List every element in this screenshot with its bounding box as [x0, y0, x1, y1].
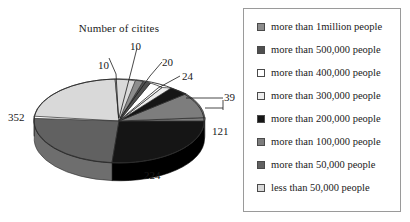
pie-slice-352 [34, 79, 119, 121]
legend-item-300000[interactable]: more than 300,000 people [257, 84, 403, 107]
legend-swatch-icon [257, 161, 265, 169]
data-label-352: 352 [8, 112, 25, 123]
data-label-10-left: 10 [98, 60, 109, 71]
legend-item-50000[interactable]: more than 50,000 people [257, 153, 403, 176]
data-label-24: 24 [182, 71, 193, 82]
legend-item-100000[interactable]: more than 100,000 people [257, 130, 403, 153]
legend-label: more than 200,000 people [271, 113, 381, 124]
legend-item-200000[interactable]: more than 200,000 people [257, 107, 403, 130]
legend-label: more than 50,000 people [271, 159, 375, 170]
legend-item-less-50000[interactable]: less than 50,000 people [257, 176, 403, 199]
legend-label: more than 100,000 people [271, 136, 381, 147]
legend-swatch-icon [257, 69, 265, 77]
legend-label: less than 50,000 people [271, 182, 370, 193]
legend-swatch-icon [257, 23, 265, 31]
pie-chart-figure: Number of citites [0, 0, 410, 222]
legend-swatch-icon [257, 138, 265, 146]
chart-plot-area: Number of citites [0, 0, 238, 222]
legend-swatch-icon [257, 184, 265, 192]
legend-item-500000[interactable]: more than 500,000 people [257, 38, 403, 61]
data-label-121: 121 [212, 126, 229, 137]
legend-swatch-icon [257, 115, 265, 123]
pie-graphic [0, 0, 238, 222]
legend-item-1million[interactable]: more than 1million people [257, 15, 403, 38]
legend-swatch-icon [257, 92, 265, 100]
legend-label: more than 1million people [271, 21, 382, 32]
legend-item-400000[interactable]: more than 400,000 people [257, 61, 403, 84]
legend-label: more than 500,000 people [271, 44, 381, 55]
data-label-39: 39 [224, 92, 235, 103]
legend-label: more than 400,000 people [271, 67, 381, 78]
data-label-10-top: 10 [130, 41, 141, 52]
legend-swatch-icon [257, 46, 265, 54]
legend-items: more than 1million people more than 500,… [243, 8, 403, 214]
legend-label: more than 300,000 people [271, 90, 381, 101]
chart-legend: more than 1million people more than 500,… [243, 8, 403, 214]
data-label-20: 20 [162, 57, 173, 68]
leader-121 [205, 100, 223, 110]
data-label-224: 224 [144, 170, 161, 181]
